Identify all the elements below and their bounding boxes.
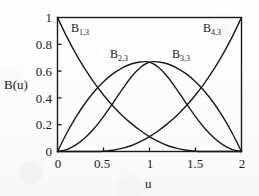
curve-label-b2-sub: 2,3 — [118, 54, 128, 63]
x-tick-label-0_5: 0.5 — [89, 157, 115, 170]
curve-label-b4-sub: 4,3 — [211, 28, 221, 37]
curve-b13 — [58, 18, 242, 152]
curve-label-b1-sub: 1,3 — [79, 28, 89, 37]
curve-label-b2: B2,3 — [110, 48, 128, 63]
y-tick-label-0_8: 0.8 — [22, 38, 52, 51]
curve-label-b4: B4,3 — [203, 22, 221, 37]
curve-label-b1: B1,3 — [71, 22, 89, 37]
x-axis-title: u — [145, 177, 152, 190]
x-tick-label-0: 0 — [48, 157, 68, 170]
x-tick-label-1_5: 1.5 — [182, 157, 208, 170]
curve-label-b2-base: B — [110, 47, 118, 61]
curve-label-b4-base: B — [203, 21, 211, 35]
y-tick-label-0_2: 0.2 — [22, 118, 52, 131]
y-tick-label-0_4: 0.4 — [22, 92, 52, 105]
x-tick-label-2: 2 — [232, 157, 252, 170]
plot-frame — [58, 18, 242, 152]
curve-b43 — [58, 18, 242, 152]
bspline-basis-figure: 1 0.8 0.6 0.4 0.2 0 0 0.5 1 1.5 2 B(u) u… — [0, 0, 259, 196]
curve-label-b3: B3,3 — [172, 48, 190, 63]
basis-curves — [58, 18, 242, 152]
y-axis-title: B(u) — [4, 78, 28, 91]
curve-label-b1-base: B — [71, 21, 79, 35]
x-tick-label-1: 1 — [140, 157, 160, 170]
curve-label-b3-base: B — [172, 47, 180, 61]
curve-label-b3-sub: 3,3 — [180, 54, 190, 63]
y-tick-label-1: 1 — [32, 11, 52, 24]
